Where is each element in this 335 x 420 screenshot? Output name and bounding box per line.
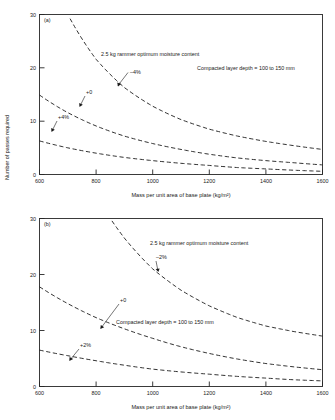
series-label-plus4: +4% — [58, 114, 69, 120]
y-ticks-a: 0 10 20 30 — [30, 12, 45, 177]
note-depth-a: Compacted layer depth = 100 to 150 mm — [197, 65, 295, 71]
curve-zero — [40, 287, 323, 370]
x-tick-label: 1600 — [317, 390, 329, 396]
chart-panel-a: Number of passes required 0 10 20 30 600… — [0, 0, 335, 205]
x-tick-label: 800 — [92, 178, 101, 184]
series-label-zero-b: +0 — [120, 297, 126, 303]
series-label-plus2: +2% — [80, 342, 91, 348]
curves-a — [40, 19, 323, 172]
x-tick-label: 800 — [92, 390, 101, 396]
leader-arrow-zero-b — [100, 325, 104, 329]
y-tick-label: 10 — [30, 118, 36, 124]
x-tick-label: 600 — [35, 178, 44, 184]
note-rammer-a: 2.5 kg rammer optimum moisture content — [101, 51, 200, 57]
svg-text:Number of passes required: Number of passes required — [4, 115, 10, 180]
leader-arrow-plus2 — [69, 357, 73, 361]
x-tick-label: 1400 — [260, 390, 272, 396]
series-label-zero-a: +0 — [86, 89, 92, 95]
y-tick-label: 0 — [33, 384, 36, 390]
curve-plus4 — [40, 141, 323, 171]
x-tick-label: 600 — [35, 390, 44, 396]
note-depth-b: Compacted layer depth = 100 to 150 mm — [116, 319, 214, 325]
figure-container: Number of passes required 0 10 20 30 600… — [0, 0, 335, 420]
y-tick-label: 30 — [30, 216, 36, 222]
panel-id-a: (a) — [44, 17, 51, 23]
x-tick-label: 1200 — [203, 390, 215, 396]
x-tick-label: 1600 — [317, 178, 329, 184]
y-axis-label: Number of passes required — [4, 115, 10, 180]
chart-panel-b: 0 10 20 30 600 800 1000 1200 1400 1600 M… — [0, 205, 335, 420]
y-tick-label: 20 — [30, 272, 36, 278]
y-ticks-b: 0 10 20 30 — [30, 216, 45, 389]
y-tick-label: 20 — [30, 65, 36, 71]
x-axis-label-a: Mass per unit area of base plate (kg/m²) — [131, 192, 230, 198]
series-label-minus2: –2% — [156, 254, 167, 260]
y-tick-label: 10 — [30, 328, 36, 334]
x-ticks-b: 600 800 1000 1200 1400 1600 — [35, 382, 329, 397]
x-tick-label: 1000 — [147, 390, 159, 396]
x-tick-label: 1000 — [147, 178, 159, 184]
x-tick-label: 1200 — [203, 178, 215, 184]
x-tick-label: 1400 — [260, 178, 272, 184]
series-label-minus4: –4% — [130, 69, 141, 75]
note-rammer-b: 2.5 kg rammer optimum moisture content — [150, 240, 249, 246]
curve-minus4 — [70, 19, 322, 150]
curve-zero — [40, 95, 323, 165]
x-ticks-a: 600 800 1000 1200 1400 1600 — [35, 170, 329, 185]
panel-id-b: (b) — [44, 221, 51, 227]
y-tick-label: 0 — [33, 172, 36, 178]
x-axis-label-b: Mass per unit area of base plate (kg/m²) — [131, 404, 230, 410]
y-tick-label: 30 — [30, 12, 36, 18]
leader-arrow-minus2 — [156, 268, 160, 272]
